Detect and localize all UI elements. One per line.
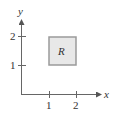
region-label: R — [57, 45, 65, 57]
y-axis-label: y — [17, 5, 23, 17]
x-tick-label-2: 2 — [73, 99, 79, 111]
y-tick-label-2: 2 — [10, 30, 16, 42]
y-tick-label-1: 1 — [10, 59, 16, 71]
x-axis-label: x — [103, 88, 109, 100]
coordinate-diagram: R y x 2 1 1 2 — [0, 0, 118, 115]
x-tick-label-1: 1 — [46, 99, 52, 111]
